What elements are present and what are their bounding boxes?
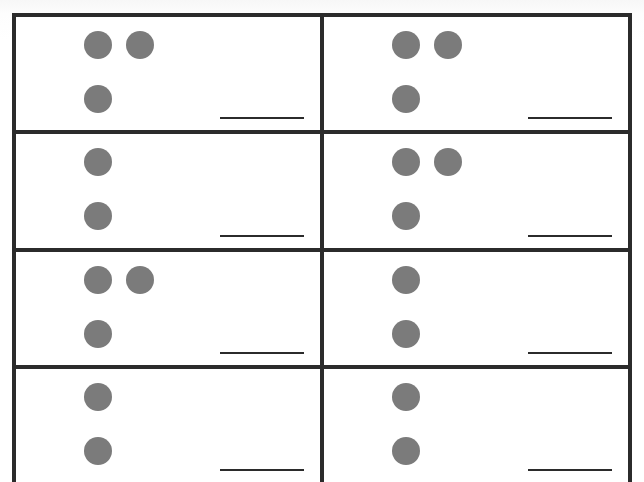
dot-row	[84, 31, 234, 59]
counting-dot	[84, 266, 112, 294]
dot-row	[392, 320, 542, 348]
dot-group	[392, 383, 542, 465]
counting-dot	[84, 31, 112, 59]
counting-dot	[84, 383, 112, 411]
dot-row	[84, 266, 234, 294]
counting-dot	[392, 148, 420, 176]
dot-group	[392, 266, 542, 348]
counting-dot	[84, 85, 112, 113]
problem-cell[interactable]	[16, 252, 324, 365]
dot-group	[392, 31, 542, 113]
problem-row	[16, 252, 628, 369]
dot-row	[392, 437, 542, 465]
problem-cell[interactable]	[324, 134, 628, 247]
counting-dot	[126, 31, 154, 59]
dot-row	[84, 320, 234, 348]
counting-dot	[392, 31, 420, 59]
worksheet-grid	[12, 13, 632, 482]
answer-line[interactable]	[220, 469, 304, 471]
dot-row	[392, 148, 542, 176]
dot-row	[84, 148, 234, 176]
problem-cell[interactable]	[16, 369, 324, 482]
dot-group	[84, 31, 234, 113]
answer-line[interactable]	[220, 117, 304, 119]
dot-row	[84, 85, 234, 113]
counting-dot	[392, 85, 420, 113]
problem-cell[interactable]	[324, 17, 628, 130]
dot-row	[84, 437, 234, 465]
dot-row	[84, 202, 234, 230]
answer-line[interactable]	[220, 352, 304, 354]
dot-row	[392, 383, 542, 411]
answer-line[interactable]	[528, 117, 612, 119]
dot-group	[84, 266, 234, 348]
problem-row	[16, 17, 628, 134]
counting-dot	[84, 202, 112, 230]
problem-row	[16, 369, 628, 482]
counting-dot	[126, 266, 154, 294]
counting-dot	[392, 202, 420, 230]
counting-dot	[392, 437, 420, 465]
answer-line[interactable]	[220, 235, 304, 237]
counting-dot	[84, 320, 112, 348]
dot-group	[392, 148, 542, 230]
counting-dot	[84, 148, 112, 176]
counting-dot	[434, 148, 462, 176]
counting-dot	[434, 31, 462, 59]
counting-dot	[84, 437, 112, 465]
problem-cell[interactable]	[16, 134, 324, 247]
answer-line[interactable]	[528, 235, 612, 237]
problem-cell[interactable]	[324, 252, 628, 365]
counting-dot	[392, 266, 420, 294]
problem-cell[interactable]	[324, 369, 628, 482]
dot-row	[392, 266, 542, 294]
dot-row	[392, 202, 542, 230]
dot-row	[392, 85, 542, 113]
answer-line[interactable]	[528, 469, 612, 471]
dot-group	[84, 148, 234, 230]
dot-row	[392, 31, 542, 59]
counting-dot	[392, 320, 420, 348]
answer-line[interactable]	[528, 352, 612, 354]
problem-row	[16, 134, 628, 251]
problem-cell[interactable]	[16, 17, 324, 130]
counting-dot	[392, 383, 420, 411]
dot-group	[84, 383, 234, 465]
dot-row	[84, 383, 234, 411]
